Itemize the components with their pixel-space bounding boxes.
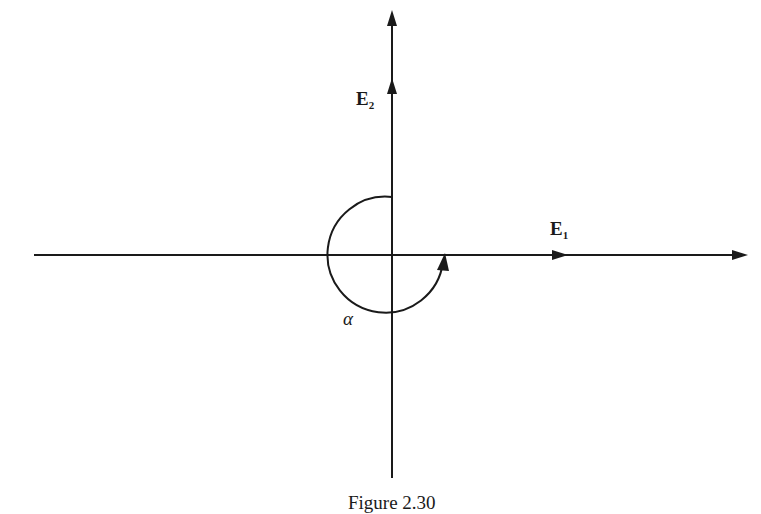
x-axis-arrowhead [732,250,748,260]
figure-caption: Figure 2.30 [348,492,436,514]
e1-label: E1 [550,218,568,241]
angle-alpha-label: α [343,308,353,330]
e2-arrowhead [387,78,397,94]
e2-label: E2 [356,88,374,111]
y-axis-arrowhead [387,10,397,26]
e1-arrowhead [552,250,568,260]
